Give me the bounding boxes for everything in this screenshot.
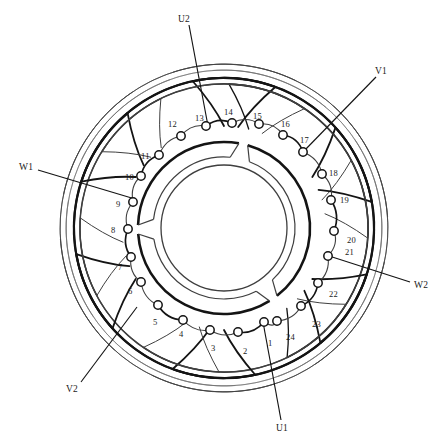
terminal-label-5: 5 (153, 318, 157, 327)
terminal-label-13: 13 (195, 114, 204, 123)
terminal-marker-19[interactable] (327, 196, 335, 204)
terminal-marker-3[interactable] (206, 326, 214, 334)
lead-label-w2: W2 (414, 281, 428, 291)
terminal-label-23: 23 (312, 320, 321, 329)
terminal-marker-20[interactable] (330, 227, 338, 235)
hub-radial-step-0-1 (272, 280, 277, 296)
terminal-label-12: 12 (168, 120, 177, 129)
terminal-label-22: 22 (329, 290, 338, 299)
terminal-label-1: 1 (268, 339, 272, 348)
terminal-marker-9[interactable] (129, 198, 137, 206)
lead-label-v2: V2 (66, 385, 78, 395)
hub-radial-step-0-0 (248, 145, 250, 161)
hub-mid-segment-1 (154, 239, 256, 299)
terminal-marker-17[interactable] (299, 148, 307, 156)
coil-halo-arc-v-3 (122, 140, 382, 386)
terminal-label-10: 10 (125, 173, 134, 182)
terminal-marker-23[interactable] (297, 302, 305, 310)
terminal-label-11: 11 (141, 152, 150, 161)
terminal-label-21: 21 (345, 248, 354, 257)
terminal-label-14: 14 (224, 108, 233, 117)
coil-halo-arc-v-9 (66, 70, 326, 316)
terminal-label-3: 3 (211, 344, 215, 353)
terminal-label-6: 6 (128, 287, 132, 296)
terminal-marker-6[interactable] (137, 278, 145, 286)
terminal-marker-12[interactable] (177, 132, 185, 140)
terminal-marker-11[interactable] (155, 151, 163, 159)
coil-arc-u-7 (80, 99, 219, 372)
terminal-marker-18[interactable] (318, 170, 326, 178)
terminal-marker-16[interactable] (279, 131, 287, 139)
terminal-label-20: 20 (347, 236, 356, 245)
terminal-marker-10[interactable] (137, 172, 145, 180)
hub-radial-step-2-1 (230, 143, 239, 157)
terminal-marker-15[interactable] (255, 120, 263, 128)
terminal-marker-4[interactable] (179, 316, 187, 324)
terminal-label-24: 24 (286, 333, 295, 342)
lead-label-u2: U2 (178, 15, 190, 25)
terminal-marker-5[interactable] (154, 301, 162, 309)
terminal-label-9: 9 (116, 200, 120, 209)
hub-radial-step-2-0 (138, 219, 153, 225)
terminal-label-8: 8 (111, 226, 115, 235)
terminal-marker-1[interactable] (260, 318, 268, 326)
hub-mid-segment-0 (249, 162, 295, 280)
coil-arc-w-10 (81, 78, 371, 202)
hub-outer-segment-2 (138, 142, 239, 225)
coil-arc-w-4 (76, 254, 366, 378)
lead-line-w1 (38, 170, 135, 199)
stator-core-hub (138, 142, 310, 314)
lead-label-w1: W1 (19, 163, 33, 173)
lead-label-v1: V1 (375, 67, 387, 77)
terminal-label-18: 18 (329, 169, 338, 178)
terminal-marker-13[interactable] (202, 122, 210, 130)
coil-overhang-arcs (74, 78, 374, 378)
winding-diagram-root: 123456789101112131415161718192021222324U… (0, 0, 448, 448)
coil-end-leg-u-6-0 (224, 330, 255, 375)
terminal-label-7: 7 (118, 263, 122, 272)
terminal-marker-7[interactable] (127, 253, 135, 261)
terminal-label-4: 4 (179, 330, 183, 339)
hub-radial-step-1-1 (138, 234, 154, 239)
terminal-label-17: 17 (300, 136, 309, 145)
terminal-marker-8[interactable] (124, 225, 132, 233)
terminal-marker-22[interactable] (314, 279, 322, 287)
terminal-label-2: 2 (243, 347, 247, 356)
hub-radial-step-1-0 (256, 291, 269, 301)
terminal-label-19: 19 (340, 196, 349, 205)
lead-line-u2 (189, 25, 208, 126)
lead-label-u1: U1 (276, 424, 288, 434)
terminal-marker-2[interactable] (234, 328, 242, 336)
terminal-marker-21[interactable] (324, 252, 332, 260)
coil-end-leg-w-5-1 (80, 218, 123, 242)
rotor-bore-circle (161, 165, 287, 291)
terminal-marker-24[interactable] (273, 317, 281, 325)
coil-end-leg-u-7-1 (160, 99, 162, 148)
terminal-label-15: 15 (253, 112, 262, 121)
terminal-marker-14[interactable] (228, 119, 236, 127)
terminal-label-16: 16 (281, 120, 290, 129)
coil-arc-u-1 (229, 84, 368, 357)
